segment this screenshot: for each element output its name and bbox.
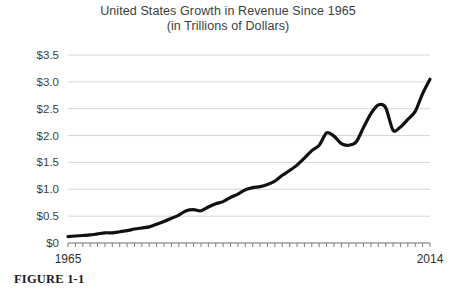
figure-container: United States Growth in Revenue Since 19…: [0, 0, 456, 296]
y-axis-tick-label: $2.0: [37, 130, 59, 142]
x-axis-endpoint-labels: 19652014: [55, 252, 444, 266]
revenue-line-chart: $0$0.5$1.0$1.5$2.0$2.5$3.0$3.5 19652014: [0, 0, 456, 296]
y-axis-tick-label: $1.0: [37, 183, 59, 195]
x-axis-label: 2014: [417, 252, 444, 266]
y-axis-tick-labels: $0$0.5$1.0$1.5$2.0$2.5$3.0$3.5: [37, 49, 59, 249]
revenue-data-line: [68, 79, 430, 236]
y-axis-tick-label: $3.0: [37, 76, 59, 88]
y-axis-tick-label: $1.5: [37, 156, 59, 168]
gridlines-group: [68, 55, 430, 243]
x-axis-label: 1965: [55, 252, 82, 266]
y-axis-tick-label: $0: [46, 237, 59, 249]
y-axis-tick-label: $3.5: [37, 49, 59, 61]
y-axis-tick-label: $2.5: [37, 103, 59, 115]
figure-caption: FIGURE 1-1: [14, 272, 84, 287]
y-axis-tick-label: $0.5: [37, 210, 59, 222]
x-axis-tick-marks: [68, 243, 430, 247]
